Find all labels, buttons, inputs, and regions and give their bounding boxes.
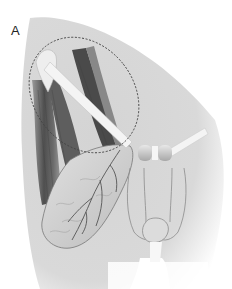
midline-connectors [138, 145, 172, 161]
panel-label: A [11, 23, 20, 38]
lower-fade [108, 262, 208, 289]
anatomical-illustration [0, 0, 232, 289]
lower-band [150, 242, 162, 262]
